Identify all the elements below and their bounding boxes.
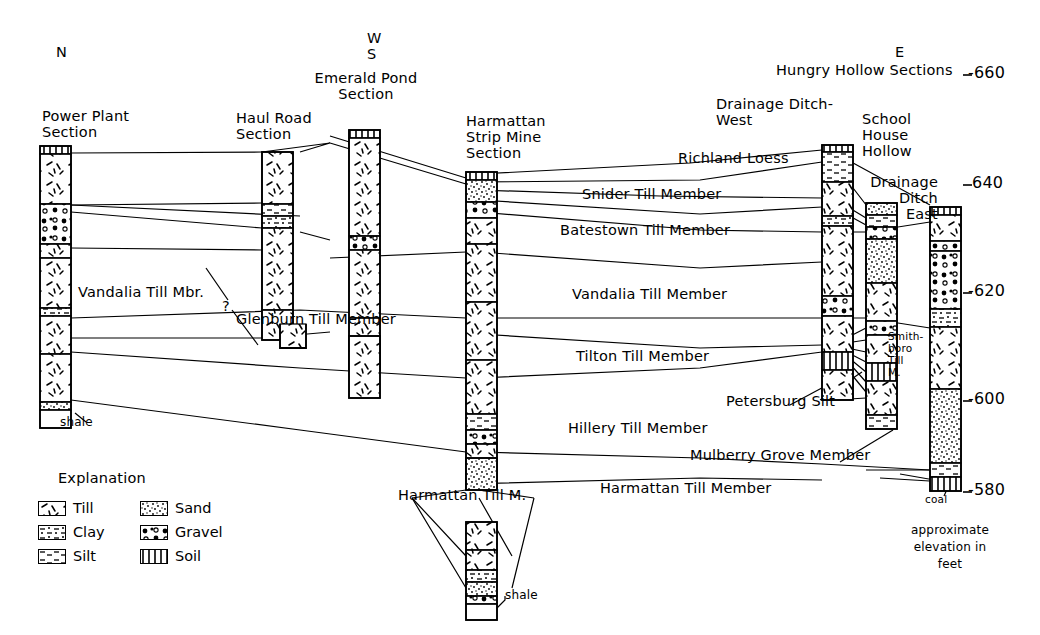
unit-label-query: ? xyxy=(222,298,230,314)
legend-item-till: Till xyxy=(38,500,94,516)
section-title-drainage-ditch-east: Drainage Ditch East xyxy=(828,174,938,222)
soil-swatch-icon xyxy=(140,549,168,564)
unit-label-vandalia: Vandalia Till Member xyxy=(572,286,727,302)
section-title-power-plant: Power Plant Section xyxy=(42,108,129,140)
unit-label-harmattan-member: Harmattan Till Member xyxy=(600,480,772,496)
section-title-emerald-pond: Emerald Pond Section xyxy=(296,70,436,102)
till-swatch-icon xyxy=(38,501,66,516)
legend-label-soil: Soil xyxy=(175,548,201,564)
section-title-harmattan: Harmattan Strip Mine Section xyxy=(466,113,546,161)
section-title-school-house-hollow: School House Hollow xyxy=(862,111,912,159)
compass-south: S xyxy=(367,46,376,62)
compass-east: E xyxy=(895,44,904,60)
bedrock-label-shale-left: shale xyxy=(60,416,93,429)
unit-label-hillery: Hillery Till Member xyxy=(568,420,708,436)
unit-label-vandalia-mbr: Vandalia Till Mbr. xyxy=(78,284,204,300)
unit-label-richland-loess: Richland Loess xyxy=(678,150,789,166)
unit-label-tilton: Tilton Till Member xyxy=(576,348,709,364)
cross-section-figure: N W S E Power Plant Section Haul Road Se… xyxy=(0,0,1040,635)
unit-label-snider: Snider Till Member xyxy=(582,186,721,202)
bedrock-label-shale-bottom: shale xyxy=(505,589,538,602)
legend-label-sand: Sand xyxy=(175,500,211,516)
unit-label-mulberry-grove: Mulberry Grove Member xyxy=(690,447,870,463)
legend-label-silt: Silt xyxy=(73,548,96,564)
legend-label-clay: Clay xyxy=(73,524,105,540)
clay-swatch-icon xyxy=(38,525,66,540)
legend-item-silt: Silt xyxy=(38,548,96,564)
legend-item-sand: Sand xyxy=(140,500,211,516)
bedrock-label-coal: coal xyxy=(925,494,947,505)
unit-label-smithboro: Smith- boro Till M. xyxy=(888,330,924,378)
group-label-hungry-hollow: Hungry Hollow Sections xyxy=(776,62,953,78)
elevation-tick-600: -600 xyxy=(968,391,1005,407)
legend-item-soil: Soil xyxy=(140,548,201,564)
elevation-caption: approximate elevation in feet xyxy=(890,522,1010,573)
elevation-tick-660: -660 xyxy=(968,65,1005,81)
elevation-tick-640: 640 xyxy=(972,175,1003,191)
unit-label-glenburn: Glenburn Till Member xyxy=(236,311,396,327)
section-title-haul-road: Haul Road Section xyxy=(236,110,312,142)
legend-label-till: Till xyxy=(73,500,94,516)
compass-north: N xyxy=(56,44,67,60)
legend-item-clay: Clay xyxy=(38,524,105,540)
unit-label-petersburg-silt: Petersburg Silt xyxy=(726,393,835,409)
legend-title: Explanation xyxy=(58,470,146,486)
sand-swatch-icon xyxy=(140,501,168,516)
elevation-tick-580: -580 xyxy=(968,482,1005,498)
section-title-drainage-ditch-west: Drainage Ditch- West xyxy=(716,96,833,128)
elevation-tick-620: -620 xyxy=(968,283,1005,299)
gravel-swatch-icon xyxy=(140,525,168,540)
legend-label-gravel: Gravel xyxy=(175,524,223,540)
compass-west: W xyxy=(367,30,382,46)
unit-label-batestown: Batestown Till Member xyxy=(560,222,730,238)
unit-label-harmattan-m: Harmattan Till M. xyxy=(398,487,526,503)
legend-item-gravel: Gravel xyxy=(140,524,223,540)
silt-swatch-icon xyxy=(38,549,66,564)
